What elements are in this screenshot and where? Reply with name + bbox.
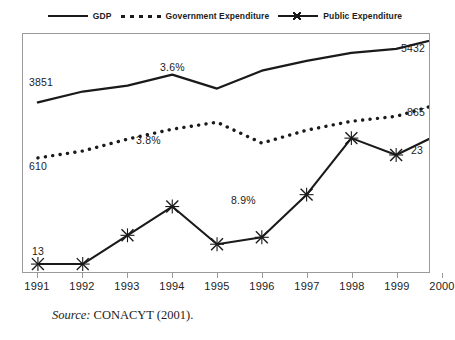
label-gdp-growth: 3.6% <box>160 61 185 73</box>
x-tick-label-1996: 1996 <box>249 280 274 292</box>
x-tick <box>262 273 263 278</box>
data-point-marker <box>121 228 135 242</box>
source-note: Source: CONACYT (2001). <box>52 308 193 323</box>
source-value: CONACYT (2001). <box>94 308 194 322</box>
x-tick-label-1999: 1999 <box>384 280 409 292</box>
data-point-marker <box>300 188 314 202</box>
x-tick-label-1991: 1991 <box>24 280 49 292</box>
data-point-marker <box>389 148 403 162</box>
plot-area: 3851 5432 3.6% 610 865 3.8% 13 23 8.9% <box>22 33 430 273</box>
label-public-expenditure-growth: 8.9% <box>231 194 256 206</box>
label-gdp-start: 3851 <box>29 76 53 88</box>
label-public-expenditure-start: 13 <box>32 245 44 257</box>
label-gdp-end: 5432 <box>401 42 425 54</box>
source-label: Source: <box>52 308 90 322</box>
x-tick <box>217 273 218 278</box>
series-line-gdp <box>38 38 429 102</box>
label-government-expenditure-start: 610 <box>29 160 47 172</box>
x-tick <box>37 273 38 278</box>
data-point-marker <box>255 230 269 244</box>
data-point-marker <box>165 200 179 214</box>
label-government-expenditure-end: 865 <box>407 106 425 118</box>
chart-legend: GDP Government Expenditure Public Expend… <box>0 7 450 25</box>
legend-label-public-expenditure: Public Expenditure <box>323 11 402 21</box>
marker-line-swatch-icon <box>278 11 318 21</box>
x-tick-label-1998: 1998 <box>339 280 364 292</box>
solid-line-swatch-icon <box>48 11 88 21</box>
chart-canvas <box>23 34 429 272</box>
x-tick-label-1992: 1992 <box>69 280 94 292</box>
legend-label-gdp: GDP <box>93 11 112 21</box>
x-tick <box>127 273 128 278</box>
data-point-marker <box>76 257 90 271</box>
legend-item-public-expenditure: Public Expenditure <box>278 11 402 21</box>
x-tick-label-1997: 1997 <box>294 280 319 292</box>
x-tick-label-2000: 2000 <box>429 280 454 292</box>
x-tick <box>82 273 83 278</box>
x-tick-label-1994: 1994 <box>159 280 184 292</box>
data-point-marker <box>344 131 358 145</box>
legend-item-gdp: GDP <box>48 11 112 21</box>
x-tick-label-1995: 1995 <box>204 280 229 292</box>
series-markers-public-expenditure <box>31 126 429 271</box>
label-public-expenditure-end: 23 <box>411 144 423 156</box>
legend-item-government-expenditure: Government Expenditure <box>121 11 270 21</box>
legend-label-government-expenditure: Government Expenditure <box>166 11 270 21</box>
x-tick <box>442 273 443 278</box>
data-point-marker <box>31 257 45 271</box>
label-government-expenditure-growth: 3.8% <box>136 134 161 146</box>
x-tick-label-1993: 1993 <box>114 280 139 292</box>
data-point-marker <box>210 237 224 251</box>
x-tick <box>307 273 308 278</box>
x-tick <box>172 273 173 278</box>
dotted-line-swatch-icon <box>121 11 161 21</box>
x-tick <box>397 273 398 278</box>
x-axis: 1991 1992 1993 1994 1995 1996 1997 1998 … <box>22 273 430 297</box>
series-line-government-expenditure <box>38 103 429 158</box>
x-tick <box>352 273 353 278</box>
